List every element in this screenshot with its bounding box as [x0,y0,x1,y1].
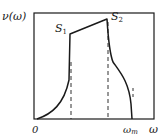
max-frequency-label: ωm [123,124,138,136]
origin-label: 0 [32,124,39,135]
dos-diagram: ν(ω) S1 S2 0 ωm ω [0,0,162,137]
plot-frame [34,13,154,119]
point-label-s2: S2 [111,10,123,24]
y-axis-label: ν(ω) [2,10,26,23]
x-axis-label: ω [149,123,158,136]
point-label-s1: S1 [55,22,67,36]
density-curve [37,19,132,119]
